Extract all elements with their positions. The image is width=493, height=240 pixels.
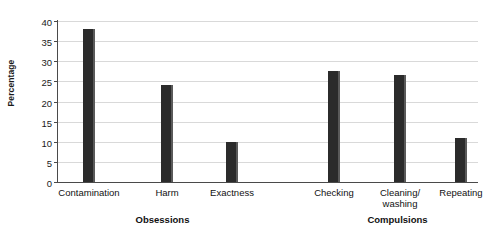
y-tick-mark bbox=[54, 41, 57, 42]
y-tick-label: 0 bbox=[47, 178, 52, 189]
group-label: Obsessions bbox=[136, 214, 190, 225]
bar bbox=[328, 71, 340, 182]
x-tick-label: Repeating bbox=[439, 187, 482, 198]
bar bbox=[394, 75, 406, 182]
gridline bbox=[58, 162, 478, 163]
y-tick-label: 25 bbox=[41, 77, 52, 88]
y-tick-mark bbox=[54, 61, 57, 62]
bar bbox=[455, 138, 467, 182]
gridline bbox=[58, 41, 478, 42]
gridline bbox=[58, 142, 478, 143]
y-tick-label: 40 bbox=[41, 17, 52, 28]
x-tick-label: Checking bbox=[314, 187, 354, 198]
y-tick-label: 20 bbox=[41, 97, 52, 108]
bar bbox=[161, 85, 173, 182]
x-tick-label: Contamination bbox=[58, 187, 119, 198]
gridline bbox=[58, 61, 478, 62]
y-tick-label: 10 bbox=[41, 137, 52, 148]
bar bbox=[83, 29, 95, 182]
x-tick-label: Cleaning/ washing bbox=[380, 187, 420, 209]
y-tick-mark bbox=[54, 182, 57, 183]
gridline bbox=[58, 21, 478, 22]
y-tick-label: 15 bbox=[41, 117, 52, 128]
gridline bbox=[58, 182, 478, 183]
gridline bbox=[58, 102, 478, 103]
y-tick-mark bbox=[54, 21, 57, 22]
y-tick-label: 35 bbox=[41, 37, 52, 48]
y-tick-label: 30 bbox=[41, 57, 52, 68]
plot-area: 0510152025303540 bbox=[57, 20, 478, 183]
bar-chart: Percentage 0510152025303540 Contaminatio… bbox=[0, 0, 493, 240]
bar bbox=[226, 142, 238, 182]
gridline bbox=[58, 122, 478, 123]
y-tick-mark bbox=[54, 162, 57, 163]
y-tick-mark bbox=[54, 122, 57, 123]
y-tick-label: 5 bbox=[47, 157, 52, 168]
y-tick-mark bbox=[54, 81, 57, 82]
x-tick-label: Harm bbox=[155, 187, 178, 198]
group-label: Compulsions bbox=[367, 214, 427, 225]
y-tick-mark bbox=[54, 102, 57, 103]
y-axis-title: Percentage bbox=[6, 48, 16, 118]
x-tick-label: Exactness bbox=[210, 187, 254, 198]
y-tick-mark bbox=[54, 142, 57, 143]
gridline bbox=[58, 81, 478, 82]
